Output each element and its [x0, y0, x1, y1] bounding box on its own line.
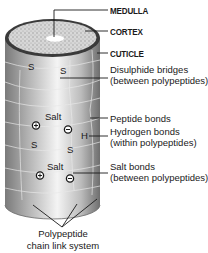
- label-cortex: CORTEX: [110, 26, 143, 37]
- label-chain-line2: chain link system: [17, 240, 109, 251]
- label-hydrogen-line1: Hydrogen bonds: [110, 126, 180, 137]
- sulphur-mark: S: [67, 145, 73, 155]
- label-peptide: Peptide bonds: [110, 113, 171, 124]
- label-salt-line2: (between polypeptides): [110, 172, 208, 183]
- label-disulphide-line2: (between polypeptides): [110, 75, 208, 86]
- label-cuticle: CUTICLE: [110, 48, 144, 59]
- hydrogen-mark: H: [81, 131, 88, 141]
- label-disulphide-line1: Disulphide bridges: [110, 64, 188, 75]
- sulphur-mark: S: [28, 62, 34, 72]
- salt-mark: Salt: [45, 112, 61, 122]
- label-salt-line1: Salt bonds: [110, 161, 155, 172]
- sulphur-mark: S: [31, 140, 37, 150]
- label-chain-line1: Polypeptide: [22, 228, 104, 239]
- salt-mark: Salt: [47, 162, 63, 172]
- hair-shaft: [5, 38, 100, 219]
- medulla-core: [46, 35, 64, 41]
- label-hydrogen-line2: (within polypeptides): [110, 137, 197, 148]
- cross-section-top: [5, 19, 100, 57]
- sulphur-mark: S: [60, 66, 66, 76]
- label-medulla: MEDULLA: [110, 5, 148, 16]
